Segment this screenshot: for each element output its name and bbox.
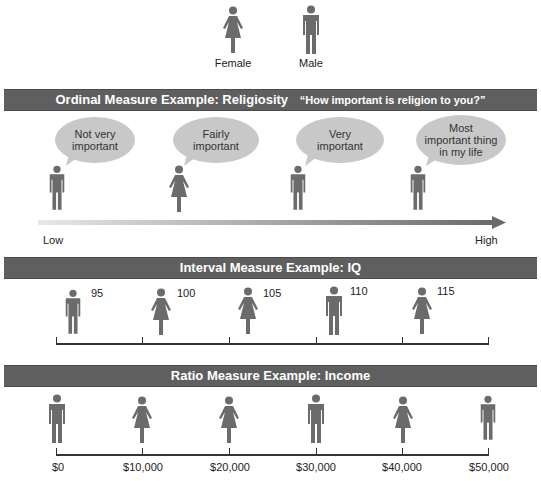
- bubble-line: Not very: [75, 128, 116, 140]
- male-figure-icon: [63, 287, 83, 337]
- female-figure-icon: [150, 288, 172, 336]
- axis-tick: [56, 337, 57, 344]
- axis-tick: [402, 448, 403, 455]
- scale-low-label: Low: [43, 234, 63, 246]
- ordinal-section-header: Ordinal Measure Example: Religiosity “Ho…: [4, 89, 537, 111]
- male-figure-icon: [46, 393, 68, 445]
- axis-tick: [142, 337, 143, 344]
- axis-tick: [402, 337, 403, 344]
- male-figure-icon: [47, 163, 67, 213]
- axis-tick: [316, 337, 317, 344]
- axis-tick: [56, 448, 57, 455]
- income-label: $20,000: [200, 461, 260, 473]
- axis-tick: [488, 448, 489, 455]
- bubble-line: in my life: [439, 146, 482, 158]
- scale-high-label: High: [475, 234, 498, 246]
- female-label: Female: [213, 57, 253, 69]
- axis-tick: [316, 448, 317, 455]
- ordinal-question: “How important is religion to you?”: [300, 94, 486, 106]
- income-label: $10,000: [113, 461, 173, 473]
- female-figure-icon: [392, 396, 414, 444]
- bubble-line: Very: [329, 128, 351, 140]
- male-figure-icon: [408, 163, 428, 213]
- female-figure-icon: [168, 165, 190, 213]
- income-label: $50,000: [459, 461, 519, 473]
- ratio-section-header: Ratio Measure Example: Income: [4, 365, 537, 387]
- low-to-high-arrow-icon: [38, 216, 508, 230]
- iq-value: 115: [437, 285, 455, 297]
- iq-value: 105: [263, 287, 281, 299]
- female-figure-icon: [218, 396, 240, 444]
- male-figure-icon: [305, 393, 327, 445]
- income-label: $0: [28, 461, 88, 473]
- male-figure-icon: [288, 163, 308, 213]
- axis-tick: [229, 448, 230, 455]
- female-figure-icon: [411, 287, 433, 335]
- interval-section-header: Interval Measure Example: IQ: [4, 257, 537, 279]
- male-figure-icon: [478, 392, 498, 444]
- income-label: $40,000: [372, 461, 432, 473]
- iq-value: 95: [91, 287, 103, 299]
- income-label: $30,000: [286, 461, 346, 473]
- male-figure-icon: [323, 285, 345, 337]
- bubble-line: important thing: [425, 134, 498, 146]
- bubble-line: important: [317, 140, 363, 152]
- bubble-line: Fairly: [203, 128, 230, 140]
- axis-tick: [229, 337, 230, 344]
- male-label: Male: [291, 57, 331, 69]
- male-figure-icon: [300, 5, 322, 55]
- bubble-line: Most: [449, 122, 473, 134]
- interval-title: Interval Measure Example: IQ: [180, 260, 361, 275]
- ordinal-title: Ordinal Measure Example: Religiosity: [55, 92, 288, 107]
- female-figure-icon: [131, 396, 153, 444]
- axis-tick: [142, 448, 143, 455]
- axis-tick: [488, 337, 489, 344]
- iq-value: 110: [350, 285, 368, 297]
- female-figure-icon: [222, 6, 244, 54]
- female-figure-icon: [237, 287, 259, 335]
- interval-axis: [56, 343, 489, 345]
- bubble-tail: [64, 150, 84, 168]
- ratio-axis: [56, 454, 489, 456]
- iq-value: 100: [177, 287, 195, 299]
- ratio-title: Ratio Measure Example: Income: [171, 368, 370, 383]
